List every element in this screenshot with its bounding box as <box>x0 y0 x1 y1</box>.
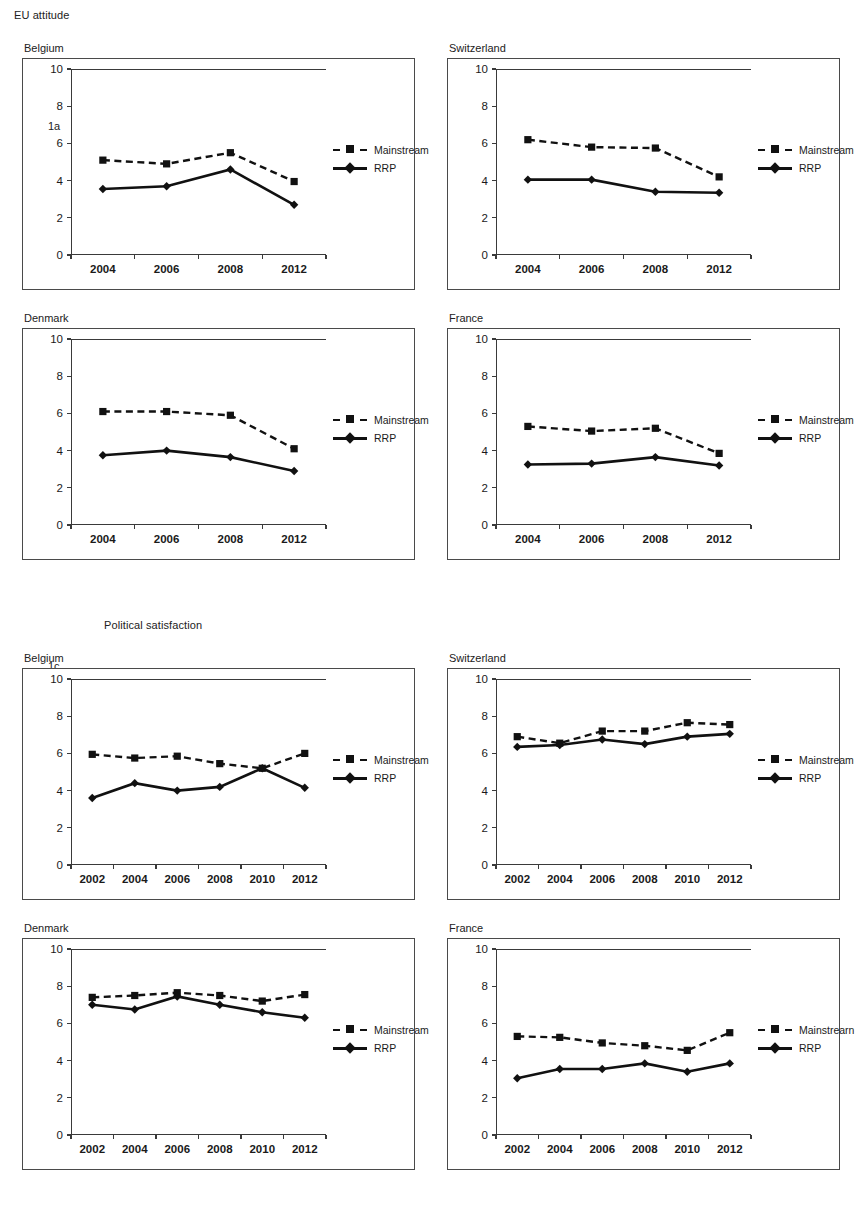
x-tick-label-2008: 2008 <box>207 1143 233 1155</box>
figure-page: EU attitude Political satisfaction Belgi… <box>0 0 861 1210</box>
x-tick-label-2004: 2004 <box>515 533 541 545</box>
y-tick-label: 2 <box>464 482 488 494</box>
x-tick-label-2002: 2002 <box>504 1143 530 1155</box>
legend-label-rrp: RRP <box>374 432 396 444</box>
plot-area-1c: 02468102004200620082012 <box>71 339 326 525</box>
legend-label-mainstream: Mainstream <box>374 754 429 766</box>
legend-swatch-solid-diamond-icon <box>758 161 794 175</box>
legend-swatch-solid-diamond-icon <box>333 1041 369 1055</box>
y-tick-label: 0 <box>39 859 63 871</box>
plot-area-1b: 02468102004200620082012 <box>496 69 751 255</box>
x-tick-label-2008: 2008 <box>218 533 244 545</box>
y-tick-label: 4 <box>464 785 488 797</box>
x-tick-label-2004: 2004 <box>122 873 148 885</box>
y-tick-label: 8 <box>39 100 63 112</box>
panel-country-label-1d: France <box>449 312 483 324</box>
legend-item-rrp[interactable]: RRP <box>758 159 854 177</box>
y-tick-label: 4 <box>39 785 63 797</box>
chart-panel-2b: 2b0246810200220042006200820102012Mainstr… <box>447 668 840 900</box>
x-tick-label-2006: 2006 <box>154 263 180 275</box>
legend-2b: MainstreamRRP <box>758 751 854 787</box>
y-tick-label: 4 <box>464 1055 488 1067</box>
legend-label-rrp: RRP <box>799 162 821 174</box>
y-tick-label: 0 <box>39 519 63 531</box>
y-tick-label: 6 <box>464 407 488 419</box>
y-tick-label: 0 <box>464 859 488 871</box>
x-tick-label-2012: 2012 <box>281 263 307 275</box>
y-tick-label: 2 <box>464 212 488 224</box>
y-tick-label: 4 <box>464 445 488 457</box>
legend-item-mainstream[interactable]: Mainstream <box>333 411 429 429</box>
legend-2d: MainstrearnRRP <box>758 1021 854 1057</box>
x-tick-label-2010: 2010 <box>249 1143 275 1155</box>
plot-area-1a: 02468102004200620082012 <box>71 69 326 255</box>
x-tick-label-2004: 2004 <box>547 873 573 885</box>
legend-swatch-dashed-square-icon <box>758 1023 794 1037</box>
legend-label-rrp: RRP <box>799 432 821 444</box>
y-tick-label: 10 <box>39 63 63 75</box>
legend-item-rrp[interactable]: RRP <box>758 769 854 787</box>
y-tick-label: 0 <box>464 519 488 531</box>
y-tick-label: 10 <box>464 943 488 955</box>
y-tick-label: 6 <box>39 137 63 149</box>
x-tick-label-2012: 2012 <box>706 533 732 545</box>
legend-1d: MainstreamRRP <box>758 411 854 447</box>
legend-item-rrp[interactable]: RRP <box>333 159 429 177</box>
x-tick-label-2012: 2012 <box>717 873 743 885</box>
x-tick-label-2008: 2008 <box>632 873 658 885</box>
legend-item-mainstream[interactable]: Mainstream <box>758 141 854 159</box>
legend-label-mainstream: Mainstream <box>799 754 854 766</box>
legend-swatch-dashed-square-icon <box>333 753 369 767</box>
y-tick-label: 0 <box>464 1129 488 1141</box>
legend-item-rrp[interactable]: RRP <box>758 429 854 447</box>
chart-panel-1a: 1a02468102004200620082012MainstreamRRP <box>22 58 415 290</box>
legend-item-rrp[interactable]: RRP <box>758 1039 854 1057</box>
x-tick-label-2002: 2002 <box>504 873 530 885</box>
x-tick-label-2008: 2008 <box>632 1143 658 1155</box>
chart-panel-2a: 2a0246810200220042006200820102012Mainstr… <box>22 668 415 900</box>
y-tick-label: 8 <box>464 100 488 112</box>
legend-item-mainstream[interactable]: Mainstream <box>333 1021 429 1039</box>
legend-swatch-solid-diamond-icon <box>333 771 369 785</box>
x-tick-label-2006: 2006 <box>154 533 180 545</box>
x-tick-label-2002: 2002 <box>79 873 105 885</box>
y-tick-label: 4 <box>39 1055 63 1067</box>
legend-item-mainstream[interactable]: Mainstrearn <box>758 1021 854 1039</box>
legend-item-rrp[interactable]: RRP <box>333 429 429 447</box>
panel-country-label-1c: Denmark <box>24 312 69 324</box>
legend-1c: MainstreamRRP <box>333 411 429 447</box>
y-tick-label: 10 <box>464 673 488 685</box>
legend-item-rrp[interactable]: RRP <box>333 1039 429 1057</box>
legend-swatch-dashed-square-icon <box>333 1023 369 1037</box>
y-tick-label: 2 <box>464 822 488 834</box>
y-tick-label: 2 <box>39 1092 63 1104</box>
y-tick-label: 10 <box>464 63 488 75</box>
x-tick-label-2008: 2008 <box>207 873 233 885</box>
y-tick-label: 0 <box>39 249 63 261</box>
legend-item-mainstream[interactable]: Mainstream <box>758 751 854 769</box>
y-tick-label: 0 <box>39 1129 63 1141</box>
x-tick-label-2004: 2004 <box>90 263 116 275</box>
legend-swatch-solid-diamond-icon <box>758 771 794 785</box>
x-tick-label-2012: 2012 <box>292 1143 318 1155</box>
y-tick-label: 8 <box>39 710 63 722</box>
x-tick-label-2006: 2006 <box>589 1143 615 1155</box>
y-tick-label: 6 <box>39 407 63 419</box>
x-tick-label-2012: 2012 <box>281 533 307 545</box>
y-tick-label: 4 <box>39 445 63 457</box>
legend-label-mainstream: Mainstream <box>799 414 854 426</box>
x-tick-label-2006: 2006 <box>579 533 605 545</box>
legend-label-mainstream: Mainstrearn <box>799 1024 854 1036</box>
y-tick-label: 2 <box>464 1092 488 1104</box>
chart-panel-2d: 2d0246810200220042006200820102012Mainstr… <box>447 938 840 1170</box>
y-tick-label: 10 <box>39 943 63 955</box>
plot-area-2d: 0246810200220042006200820102012 <box>496 949 751 1135</box>
x-tick-label-2012: 2012 <box>292 873 318 885</box>
legend-item-rrp[interactable]: RRP <box>333 769 429 787</box>
y-tick-label: 10 <box>39 333 63 345</box>
section-title-eu-attitude: EU attitude <box>14 9 70 21</box>
legend-item-mainstream[interactable]: Mainstream <box>333 141 429 159</box>
legend-item-mainstream[interactable]: Mainstream <box>333 751 429 769</box>
legend-item-mainstream[interactable]: Mainstream <box>758 411 854 429</box>
y-tick-label: 6 <box>464 1017 488 1029</box>
